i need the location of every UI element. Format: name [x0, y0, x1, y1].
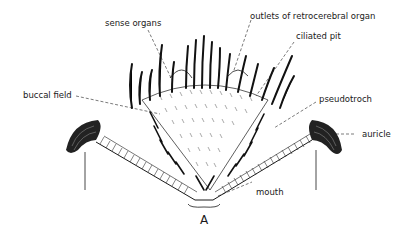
- label-sense-organs: sense organs: [105, 19, 161, 28]
- leader-outlets: [234, 20, 251, 70]
- label-mouth: mouth: [256, 188, 284, 197]
- buccal-cilia: [150, 112, 264, 190]
- retrocerebral-bump: [228, 70, 248, 76]
- label-ciliated-pit: ciliated pit: [296, 32, 341, 41]
- panel-label: A: [200, 214, 208, 226]
- label-auricle: auricle: [362, 130, 391, 139]
- buccal-field-outline: [142, 85, 268, 190]
- auricle-right: [309, 120, 342, 154]
- auricle-left: [66, 120, 101, 153]
- pseudotroch-hatching: [100, 136, 310, 194]
- label-buccal-field: buccal field: [23, 91, 72, 100]
- leader-lines: [76, 20, 356, 196]
- label-outlets-retrocerebral-organ: outlets of retrocerebral organ: [250, 12, 375, 21]
- cilia: [130, 36, 294, 108]
- label-pseudotroch: pseudotroch: [319, 95, 372, 104]
- leader-buccal-field: [76, 96, 160, 114]
- mouth-brace: [188, 204, 220, 207]
- diagram-drawing: [0, 0, 409, 241]
- leader-mouth: [218, 182, 252, 196]
- rotifer-corona-diagram: sense organs outlets of retrocerebral or…: [0, 0, 409, 241]
- buccal-field-texture: [160, 90, 252, 167]
